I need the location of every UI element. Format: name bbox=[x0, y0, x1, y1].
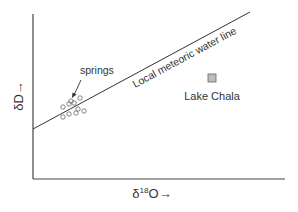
lake-chala-marker bbox=[208, 74, 216, 82]
arrowhead-icon bbox=[72, 93, 77, 99]
diagram: Local meteoric water line springs Lake C… bbox=[0, 0, 298, 212]
lake-chala-label: Lake Chala bbox=[184, 90, 241, 102]
svg-text:δD→: δD→ bbox=[11, 81, 26, 111]
springs-arrow bbox=[74, 80, 81, 95]
x-axis-label: δ18O→ bbox=[132, 186, 171, 201]
meteoric-line-label: Local meteoric water line bbox=[130, 24, 238, 90]
y-axis-label: δD→ bbox=[11, 81, 26, 111]
springs-label: springs bbox=[80, 64, 114, 76]
meteoric-water-line bbox=[33, 12, 250, 129]
svg-text:δ18O→: δ18O→ bbox=[132, 186, 171, 201]
